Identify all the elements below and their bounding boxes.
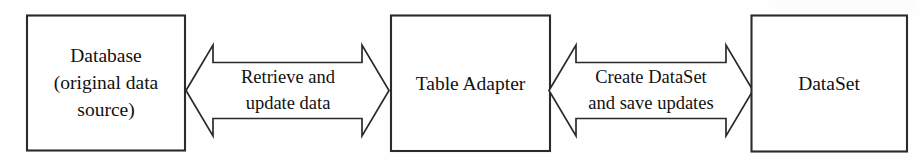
connector-adapter-to-dataset-arrow (549, 45, 753, 136)
connector-database-to-adapter-label-line-2: update data (246, 93, 331, 113)
diagram-svg: Database (original data source) Retrieve… (0, 0, 923, 163)
connector-database-to-adapter-arrow (186, 45, 389, 136)
connector-adapter-to-dataset: Create DataSet and save updates (549, 45, 753, 136)
node-database-line-3: source) (77, 99, 134, 121)
node-database-line-1: Database (70, 45, 141, 66)
connector-database-to-adapter-label-line-1: Retrieve and (241, 67, 336, 87)
connector-database-to-adapter: Retrieve and update data (186, 45, 389, 136)
node-database: Database (original data source) (27, 16, 185, 151)
connector-adapter-to-dataset-label-line-1: Create DataSet (595, 67, 707, 87)
node-dataset-line-1: DataSet (798, 73, 860, 94)
node-dataset: DataSet (752, 16, 908, 152)
connector-adapter-to-dataset-label-line-2: and save updates (588, 93, 713, 113)
node-table-adapter-line-1: Table Adapter (416, 73, 526, 94)
node-database-line-2: (original data (54, 72, 159, 94)
node-table-adapter: Table Adapter (391, 16, 550, 152)
diagram-canvas: Database (original data source) Retrieve… (0, 0, 923, 163)
